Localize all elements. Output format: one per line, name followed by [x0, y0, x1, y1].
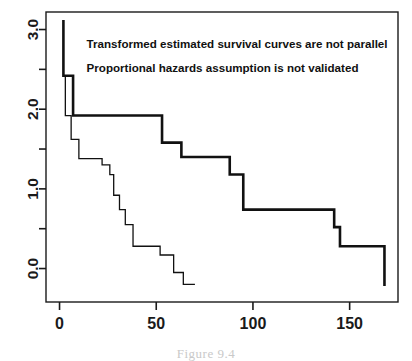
x-tick-label: 100	[240, 315, 267, 332]
x-tick-label: 150	[336, 315, 363, 332]
annotation-line-1: Transformed estimated survival curves ar…	[87, 37, 388, 50]
x-tick-label: 50	[147, 315, 165, 332]
y-tick-label: 1.0	[25, 178, 42, 200]
y-tick-label: 3.0	[25, 19, 42, 41]
y-tick-label: 2.0	[25, 98, 42, 120]
series-group-1-thick	[63, 20, 384, 286]
annotation-line-2: Proportional hazards assumption is not v…	[87, 61, 359, 74]
figure-caption: Figure 9.4	[0, 344, 412, 361]
survival-plot-figure: 0.01.02.03.0050100150Transformed estimat…	[0, 0, 412, 361]
series-group-2-thin	[65, 76, 195, 285]
y-tick-label: 0.0	[25, 258, 42, 280]
x-tick-label: 0	[55, 315, 64, 332]
chart-svg: 0.01.02.03.0050100150Transformed estimat…	[0, 0, 412, 361]
curves-layer	[63, 20, 384, 286]
